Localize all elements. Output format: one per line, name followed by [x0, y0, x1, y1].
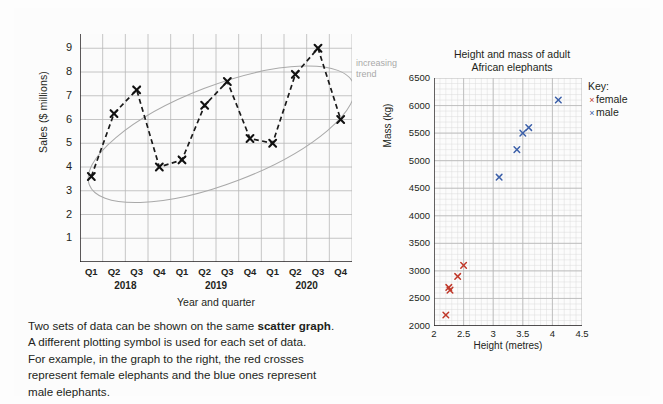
scatter-y-tick-label: 5500: [400, 127, 430, 138]
scatter-y-tick-label: 2500: [400, 292, 430, 303]
scatter-y-tick-label: 3000: [400, 265, 430, 276]
scatter-chart-title: Height and mass of adult African elephan…: [422, 48, 602, 73]
legend-label-female: female: [596, 93, 628, 105]
legend-item-female: ×female: [588, 93, 652, 106]
scatter-y-tick-label: 4500: [400, 182, 430, 193]
line-chart: Sales ($ millions) 123456789 Q1Q2Q3Q4Q1Q…: [18, 14, 378, 314]
y-tick-label: 2: [50, 208, 72, 220]
scatter-x-tick-label: 2: [422, 328, 446, 339]
y-tick-label: 8: [50, 65, 72, 77]
year-group-label: 2019: [186, 280, 246, 291]
y-tick-label: 1: [50, 231, 72, 243]
caption-line-1a: Two sets of data can be shown on the sam…: [28, 319, 257, 332]
scatter-title-line1: Height and mass of adult: [422, 48, 602, 61]
scatter-y-tick-label: 5000: [400, 155, 430, 166]
scatter-x-tick-label: 2.5: [452, 328, 476, 339]
legend-title: Key:: [588, 80, 652, 92]
data-point-marker: [201, 102, 208, 109]
scatter-y-tick-label: 4000: [400, 210, 430, 221]
line-chart-y-axis-label: Sales ($ millions): [37, 71, 49, 153]
scatter-x-axis-label: Height (metres): [434, 340, 582, 351]
caption-scatter-graph-term: scatter graph: [257, 319, 330, 332]
scatter-chart-svg: [434, 78, 582, 326]
scatter-y-tick-label: 6500: [400, 72, 430, 83]
scatter-y-axis-label: Mass (kg): [382, 104, 393, 148]
page-root: Sales ($ millions) 123456789 Q1Q2Q3Q4Q1Q…: [0, 0, 663, 404]
data-point-marker: [111, 110, 118, 117]
y-tick-label: 4: [50, 160, 72, 172]
caption-line-2: A different plotting symbol is used for …: [28, 334, 384, 350]
male-cross-icon: ×: [588, 107, 596, 119]
legend-item-male: ×male: [588, 106, 652, 119]
y-tick-label: 3: [50, 184, 72, 196]
y-tick-label: 7: [50, 89, 72, 101]
legend-label-male: male: [596, 106, 619, 118]
scatter-legend: Key: ×female ×male: [588, 80, 652, 119]
x-tick-label: Q4: [328, 266, 354, 277]
y-tick-label: 9: [50, 41, 72, 53]
y-tick-label: 6: [50, 113, 72, 125]
scatter-y-tick-label: 6000: [400, 100, 430, 111]
line-chart-svg: [80, 34, 352, 262]
line-chart-x-axis-label: Year and quarter: [80, 296, 352, 308]
year-group-label: 2018: [95, 280, 155, 291]
scatter-plot-area: [434, 78, 582, 326]
scatter-x-tick-label: 3: [481, 328, 505, 339]
y-tick-label: 5: [50, 136, 72, 148]
caption-line-4: represent female elephants and the blue …: [28, 367, 384, 383]
scatter-x-tick-label: 3.5: [511, 328, 535, 339]
scatter-x-tick-label: 4.5: [570, 328, 594, 339]
female-cross-icon: ×: [588, 94, 596, 106]
caption-line-1: Two sets of data can be shown on the sam…: [28, 318, 384, 334]
scatter-x-tick-label: 4: [540, 328, 564, 339]
scatter-title-line2: African elephants: [422, 61, 602, 74]
caption-line-3: For example, in the graph to the right, …: [28, 351, 384, 367]
data-point-marker: [247, 135, 254, 142]
line-chart-plot-area: [80, 34, 352, 262]
scatter-y-tick-label: 3500: [400, 237, 430, 248]
scatter-chart: Height and mass of adult African elephan…: [392, 14, 654, 344]
caption-text: Two sets of data can be shown on the sam…: [28, 318, 384, 400]
caption-line-5: male elephants.: [28, 384, 384, 400]
caption-line-1c: .: [331, 319, 334, 332]
year-group-label: 2020: [277, 280, 337, 291]
